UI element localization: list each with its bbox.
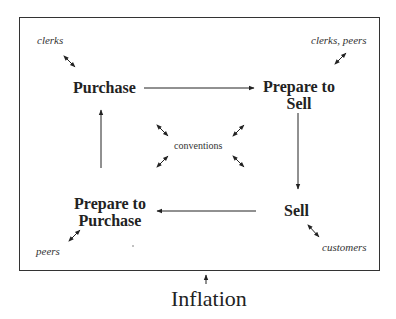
- arrow-conventions-nw: [157, 125, 168, 136]
- external-inflation: Inflation: [171, 286, 247, 312]
- arrow-conventions-ne: [233, 125, 244, 136]
- node-purchase: Purchase: [73, 79, 136, 96]
- node-prepare-to-purchase-line2: Purchase: [70, 212, 150, 229]
- node-purchase-label: Purchase: [73, 79, 136, 96]
- actor-clerks-peers: clerks, peers: [311, 34, 367, 46]
- node-prepare-to-sell: Prepare to Sell: [259, 78, 339, 112]
- node-prepare-to-sell-line1: Prepare to: [259, 78, 339, 95]
- arrow-customers-sell: [308, 225, 319, 237]
- node-prepare-to-purchase: Prepare to Purchase: [70, 195, 150, 229]
- arrow-clerks-purchase: [64, 56, 75, 67]
- arrow-conventions-sw: [157, 156, 168, 167]
- node-prepare-to-purchase-line1: Prepare to: [70, 195, 150, 212]
- center-conventions: conventions: [174, 140, 222, 151]
- node-sell-label: Sell: [284, 202, 309, 219]
- actor-peers: peers: [36, 245, 60, 257]
- arrow-clerks-peers-prepare-sell: [335, 53, 346, 64]
- node-sell: Sell: [284, 202, 309, 219]
- arrow-conventions-se: [233, 156, 244, 167]
- stray-dot: [132, 245, 133, 246]
- actor-clerks: clerks: [37, 34, 63, 46]
- actor-customers: customers: [322, 241, 367, 253]
- node-prepare-to-sell-line2: Sell: [259, 95, 339, 112]
- arrows-layer: [0, 0, 396, 319]
- arrow-peers-prepare-purchase: [69, 230, 80, 241]
